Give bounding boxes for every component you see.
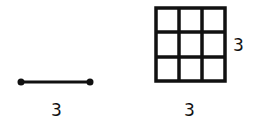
grid-height-label: 3 [233,37,244,54]
diagram-canvas [0,0,256,131]
grid-outline [156,8,225,81]
segment-endpoint-right [87,79,94,86]
line-segment [18,79,94,86]
segment-endpoint-left [18,79,25,86]
segment-length-label: 3 [51,102,62,119]
grid-width-label: 3 [184,102,195,119]
grid-square [156,8,225,81]
